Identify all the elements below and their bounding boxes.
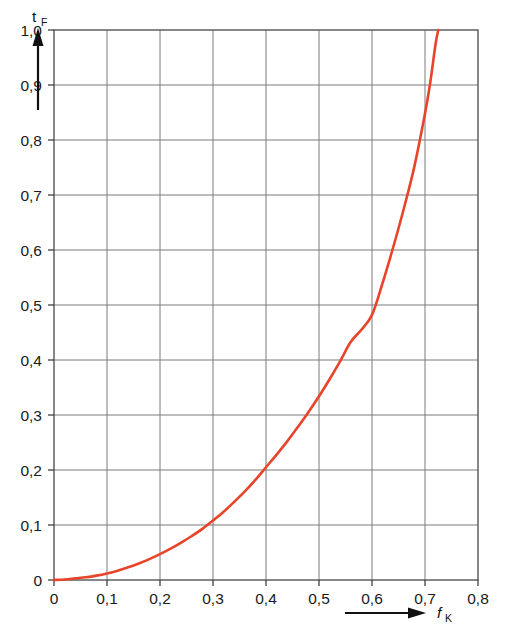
tick-label-y: 0 bbox=[33, 572, 42, 589]
tick-label-x: 0,2 bbox=[149, 590, 171, 607]
x-axis-tick-labels: 00,10,20,30,40,50,60,70,8 bbox=[50, 590, 489, 607]
x-axis-title-sub: K bbox=[445, 612, 452, 624]
tick-label-y: 0,5 bbox=[20, 297, 42, 314]
tick-label-y: 0,7 bbox=[20, 187, 42, 204]
tick-label-y: 0,4 bbox=[20, 352, 42, 369]
tick-label-x: 0,7 bbox=[414, 590, 436, 607]
tick-label-y: 0,8 bbox=[20, 132, 42, 149]
tick-label-y: 0,6 bbox=[20, 242, 42, 259]
tick-label-x: 0,6 bbox=[361, 590, 383, 607]
tick-label-x: 0 bbox=[50, 590, 59, 607]
y-axis-title-main: t bbox=[32, 8, 37, 25]
chart-canvas: 00,10,20,30,40,50,60,70,80,91,0 00,10,20… bbox=[0, 0, 507, 637]
chart-figure: 00,10,20,30,40,50,60,70,80,91,0 00,10,20… bbox=[0, 0, 507, 637]
tick-label-y: 0,1 bbox=[20, 517, 42, 534]
tick-label-x: 0,3 bbox=[202, 590, 224, 607]
y-axis-title-sub: F bbox=[41, 16, 47, 28]
tick-label-x: 0,4 bbox=[255, 590, 277, 607]
tick-label-x: 0,1 bbox=[96, 590, 118, 607]
tick-label-x: 0,5 bbox=[308, 590, 330, 607]
tick-label-x: 0,8 bbox=[467, 590, 489, 607]
tick-label-y: 0,3 bbox=[20, 407, 42, 424]
tick-label-y: 0,2 bbox=[20, 462, 42, 479]
